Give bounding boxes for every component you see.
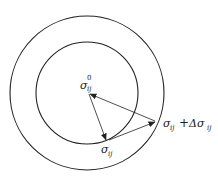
- svg-text:Δσ: Δσ: [188, 117, 205, 130]
- vector-center-to-inner: [89, 94, 106, 140]
- svg-text:+: +: [179, 116, 189, 130]
- vector-inner-to-outer: [109, 122, 155, 140]
- label-inner-point: σ ij: [101, 143, 113, 158]
- svg-text:ij: ij: [207, 124, 212, 132]
- svg-text:ij: ij: [87, 85, 92, 93]
- diagram-canvas: σ 0 ij σ ij σ ij + Δσ ij: [0, 0, 218, 181]
- svg-text:0: 0: [87, 74, 91, 82]
- label-outer-point: σ ij + Δσ ij: [163, 116, 212, 132]
- label-center: σ 0 ij: [80, 74, 92, 93]
- svg-text:ij: ij: [170, 124, 175, 132]
- svg-text:ij: ij: [108, 150, 113, 158]
- outer-circle: [10, 16, 164, 170]
- vector-outer-to-center: [90, 94, 155, 121]
- inner-circle: [36, 42, 138, 144]
